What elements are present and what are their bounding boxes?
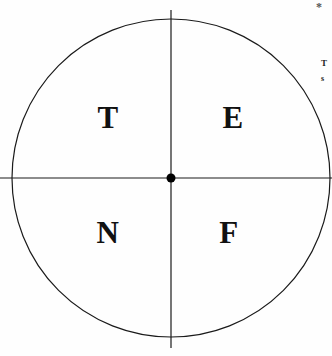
figure-canvas: T E N F * T s xyxy=(0,0,332,356)
center-point-dot xyxy=(167,174,176,183)
quadrant-label-top-left: T xyxy=(86,102,130,133)
quadrant-label-bottom-left: N xyxy=(86,217,130,248)
margin-asterisk-marker: * xyxy=(316,1,322,15)
margin-note-line-2: s xyxy=(321,74,327,90)
margin-clipped-note: T s xyxy=(321,58,327,90)
quadrant-circle-diagram xyxy=(0,0,332,356)
quadrant-label-bottom-right: F xyxy=(207,217,251,248)
margin-note-line-1: T xyxy=(321,58,327,74)
quadrant-label-top-right: E xyxy=(211,102,255,133)
